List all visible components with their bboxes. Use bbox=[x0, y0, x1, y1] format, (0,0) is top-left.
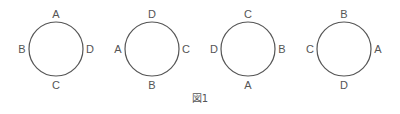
circle-diagram-4: BDCA bbox=[306, 8, 382, 91]
circle-diagram-3: CADB bbox=[210, 8, 286, 91]
label-right: B bbox=[278, 43, 285, 55]
label-left: B bbox=[18, 43, 25, 55]
label-top: B bbox=[340, 8, 347, 20]
label-right: C bbox=[182, 43, 190, 55]
figure-caption: 図1 bbox=[0, 90, 400, 105]
circle bbox=[221, 22, 275, 76]
label-top: C bbox=[244, 8, 252, 20]
circle-diagram-1: ACBD bbox=[18, 8, 94, 91]
circle bbox=[29, 22, 83, 76]
circle-diagram-2: DBAC bbox=[114, 8, 190, 91]
label-left: C bbox=[306, 43, 314, 55]
label-left: A bbox=[114, 43, 122, 55]
circle bbox=[317, 22, 371, 76]
label-top: D bbox=[148, 8, 156, 20]
label-right: D bbox=[86, 43, 94, 55]
label-top: A bbox=[52, 8, 60, 20]
label-left: D bbox=[210, 43, 218, 55]
label-right: A bbox=[374, 43, 382, 55]
circle bbox=[125, 22, 179, 76]
